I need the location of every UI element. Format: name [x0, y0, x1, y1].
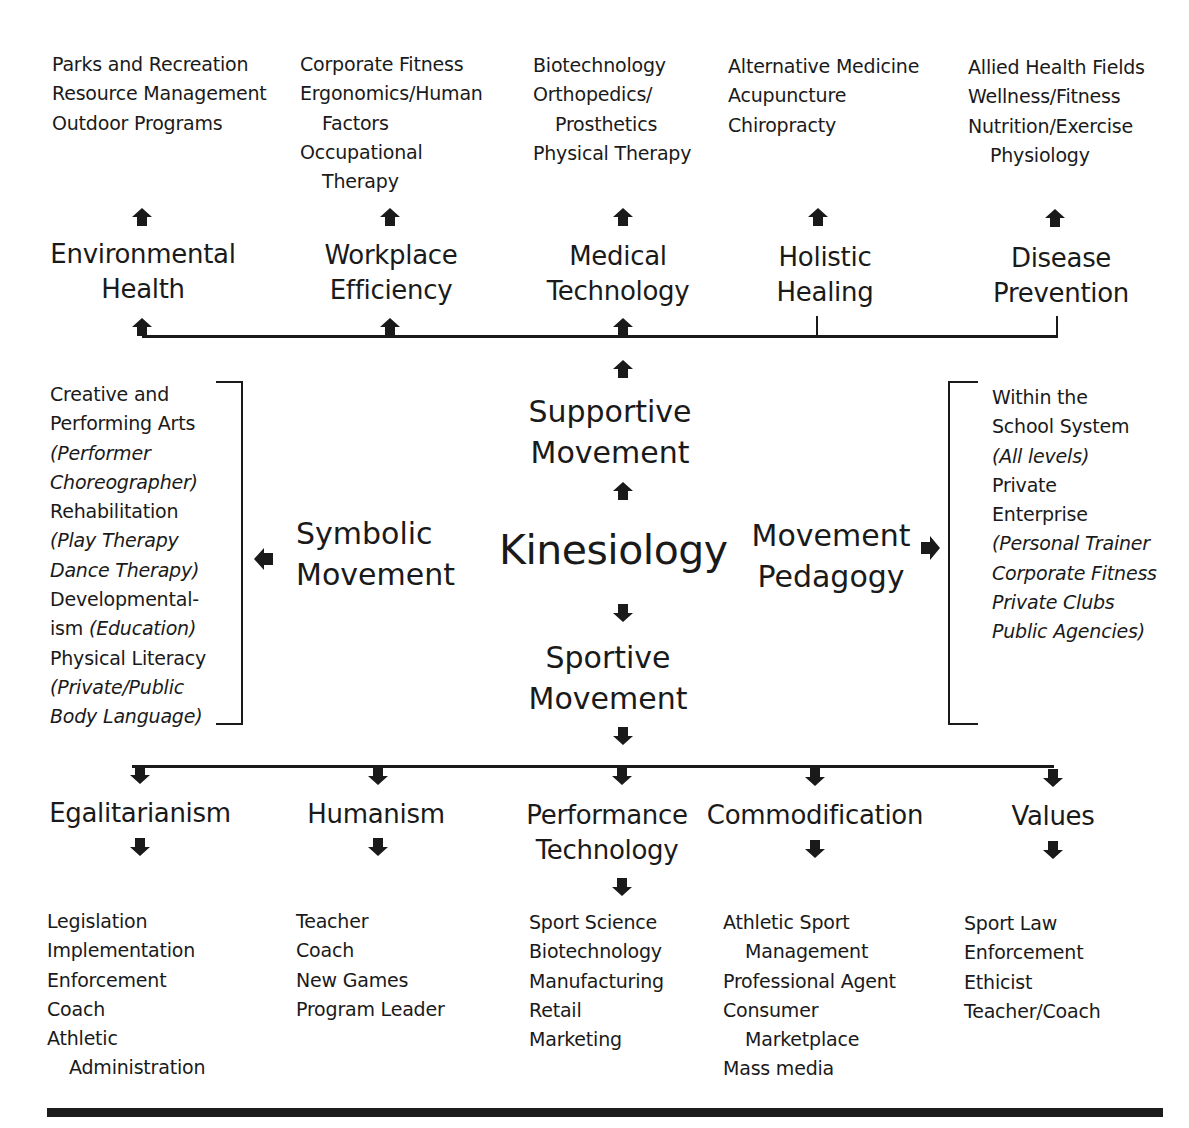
arrow-left-icon	[254, 548, 273, 570]
list-item: (Performer	[50, 439, 206, 468]
arrow-up-icon	[613, 208, 633, 226]
list-item: Manufacturing	[529, 967, 664, 996]
arrow-up-icon	[613, 360, 633, 378]
list-item: Public Agencies)	[992, 617, 1157, 646]
list-item: Allied Health Fields	[968, 53, 1145, 82]
list-item: Biotechnology	[529, 937, 664, 966]
list-item: (All levels)	[992, 442, 1157, 471]
list-item: Rehabilitation	[50, 497, 206, 526]
list-item: Legislation	[47, 907, 205, 936]
supportive-movement: Supportive Movement	[490, 391, 730, 473]
symbolic-bracket	[216, 381, 243, 725]
category-values: Values	[953, 799, 1153, 834]
list-item: School System	[992, 412, 1157, 441]
arrow-down-icon	[368, 838, 388, 856]
list-item: Teacher	[296, 907, 445, 936]
list-item: Alternative Medicine	[728, 52, 919, 81]
list-item: Performing Arts	[50, 409, 206, 438]
arrow-up-icon	[132, 208, 152, 226]
arrow-down-icon	[613, 727, 633, 745]
list-item: Sport Science	[529, 908, 664, 937]
category-commodification: Commodification	[700, 798, 930, 833]
sportive-movement: Sportive Movement	[488, 637, 728, 719]
bottom-outcomes-values: Sport Law Enforcement Ethicist Teacher/C…	[964, 909, 1101, 1026]
list-item: Enforcement	[964, 938, 1101, 967]
arrow-up-icon	[808, 208, 828, 226]
list-item: Orthopedics/	[533, 80, 691, 109]
list-item: Professional Agent	[723, 967, 896, 996]
list-item: Mass media	[723, 1054, 896, 1083]
top-connector-line	[142, 335, 1058, 338]
list-item: Program Leader	[296, 995, 445, 1024]
top-outcomes-workplace: Corporate Fitness Ergonomics/Human Facto…	[300, 50, 483, 196]
arrow-down-icon	[130, 838, 150, 856]
category-disease-prevention: Disease Prevention	[961, 241, 1161, 311]
list-item: Developmental-	[50, 585, 206, 614]
movement-pedagogy: Movement Pedagogy	[746, 515, 916, 597]
diagram-title-kinesiology: Kinesiology	[499, 525, 728, 575]
list-item: Parks and Recreation	[52, 50, 267, 79]
list-item: Enforcement	[47, 966, 205, 995]
arrow-down-icon	[805, 840, 825, 858]
list-item: Retail	[529, 996, 664, 1025]
category-holistic-healing: Holistic Healing	[725, 240, 925, 310]
list-item: ism (Education)	[50, 614, 206, 643]
list-item: Therapy	[300, 167, 483, 196]
list-item: Physical Therapy	[533, 139, 691, 168]
bottom-outcomes-commodification: Athletic Sport Management Professional A…	[723, 908, 896, 1084]
list-item: Consumer	[723, 996, 896, 1025]
arrow-down-icon	[612, 767, 632, 785]
pedagogy-outcomes: Within the School System (All levels) Pr…	[992, 383, 1157, 647]
list-item: Physical Literacy	[50, 644, 206, 673]
category-egalitarianism: Egalitarianism	[30, 796, 250, 831]
category-workplace-efficiency: Workplace Efficiency	[291, 238, 491, 308]
connector-tick	[816, 316, 818, 337]
list-item: Marketplace	[723, 1025, 896, 1054]
list-item: Coach	[296, 936, 445, 965]
list-item: (Personal Trainer	[992, 529, 1157, 558]
list-item: Acupuncture	[728, 81, 919, 110]
bottom-rule	[47, 1108, 1163, 1117]
list-item: Factors	[300, 109, 483, 138]
list-item: Teacher/Coach	[964, 997, 1101, 1026]
list-item: Creative and	[50, 380, 206, 409]
list-item: Physiology	[968, 141, 1145, 170]
list-item: Implementation	[47, 936, 205, 965]
list-item: Body Language)	[50, 702, 206, 731]
category-environmental-health: Environmental Health	[43, 237, 243, 307]
connector-tick	[1056, 316, 1058, 338]
symbolic-movement: Symbolic Movement	[296, 513, 455, 595]
list-item: Ergonomics/Human	[300, 79, 483, 108]
list-item: Occupational	[300, 138, 483, 167]
arrow-up-icon	[380, 208, 400, 226]
list-item: Private	[992, 471, 1157, 500]
category-performance-technology: Performance Technology	[507, 798, 707, 868]
arrow-right-icon	[921, 536, 940, 560]
list-item: Chiropracty	[728, 111, 919, 140]
arrow-down-icon	[613, 604, 633, 622]
list-item: Management	[723, 937, 896, 966]
arrow-down-icon	[612, 878, 632, 896]
list-item: Private Clubs	[992, 588, 1157, 617]
list-item: Enterprise	[992, 500, 1157, 529]
top-outcomes-environmental: Parks and Recreation Resource Management…	[52, 50, 267, 138]
list-item: Sport Law	[964, 909, 1101, 938]
list-item: (Private/Public	[50, 673, 206, 702]
list-item: Biotechnology	[533, 51, 691, 80]
arrow-down-icon	[130, 766, 150, 784]
list-item: Prosthetics	[533, 110, 691, 139]
list-item: Marketing	[529, 1025, 664, 1054]
list-item: Administration	[47, 1053, 205, 1082]
arrow-down-icon	[368, 767, 388, 785]
pedagogy-bracket	[948, 381, 978, 725]
list-item: Corporate Fitness	[300, 50, 483, 79]
list-item: Within the	[992, 383, 1157, 412]
arrow-up-icon	[613, 318, 633, 336]
bottom-connector-line	[132, 765, 1054, 768]
symbolic-outcomes: Creative and Performing Arts (Performer …	[50, 380, 206, 732]
bottom-outcomes-egalitarianism: Legislation Implementation Enforcement C…	[47, 907, 205, 1083]
list-item: Wellness/Fitness	[968, 82, 1145, 111]
list-item: Corporate Fitness	[992, 559, 1157, 588]
arrow-down-icon	[805, 768, 825, 786]
arrow-up-icon	[1045, 209, 1065, 227]
